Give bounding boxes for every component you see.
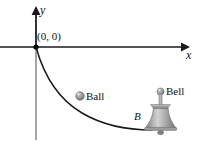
- ball-icon: [76, 92, 85, 101]
- bell-label: Bell: [166, 86, 184, 97]
- bell-rim: [145, 127, 177, 130]
- ball-label: Ball: [86, 91, 104, 102]
- ball-highlight: [77, 93, 80, 95]
- y-axis-label: y: [40, 4, 45, 16]
- y-axis: [32, 6, 41, 140]
- origin-label: (0, 0): [37, 31, 61, 42]
- point-b-label: B: [134, 111, 141, 122]
- bell-knob-highlight: [158, 89, 160, 91]
- bell-clapper: [158, 130, 164, 134]
- figure-container: (0, 0) y x Ball Bell B: [0, 0, 201, 147]
- bell-post: [159, 95, 163, 106]
- ball-sphere: [76, 92, 85, 101]
- x-axis-label: x: [186, 49, 191, 61]
- bell-yoke: [151, 105, 171, 109]
- bell-top-knob: [157, 88, 164, 95]
- figure-canvas: [0, 0, 201, 147]
- bell-body: [146, 109, 177, 129]
- x-axis: [0, 43, 190, 52]
